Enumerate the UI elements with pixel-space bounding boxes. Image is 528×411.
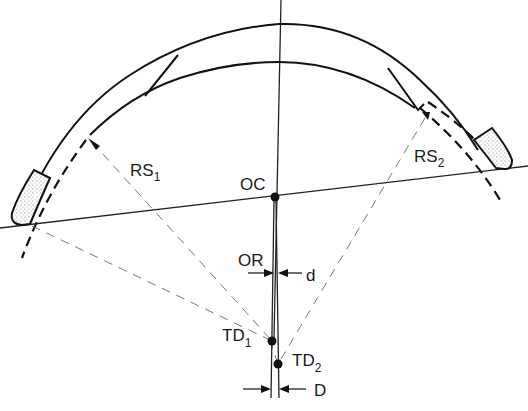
oc-point xyxy=(271,193,280,202)
right-cusp xyxy=(388,68,424,110)
rs2-label: RS2 xyxy=(414,147,445,170)
right-pad xyxy=(474,128,512,169)
optics-diagram: RS1 RS2 OC OR d TD1 TD2 D xyxy=(0,0,528,411)
D-large-label: D xyxy=(314,381,326,400)
td1-point xyxy=(268,337,277,346)
left-pad xyxy=(12,170,50,225)
rs1-label: RS1 xyxy=(130,161,161,184)
D-dimension-arrows xyxy=(243,385,306,393)
oc-label: OC xyxy=(240,175,266,194)
left-cusp xyxy=(145,55,178,96)
inner-arc xyxy=(90,62,415,135)
td2-point xyxy=(274,360,283,369)
rs2-marker xyxy=(422,112,430,120)
td2-label: TD2 xyxy=(292,351,322,375)
td1-label: TD1 xyxy=(222,326,252,350)
or-label: OR xyxy=(238,251,264,270)
d-small-label: d xyxy=(306,266,315,285)
